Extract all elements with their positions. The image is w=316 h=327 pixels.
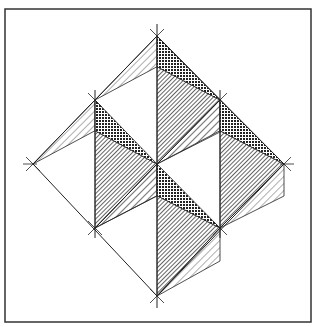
shaded-regions	[33, 36, 284, 296]
lattice-diagram	[0, 0, 316, 327]
